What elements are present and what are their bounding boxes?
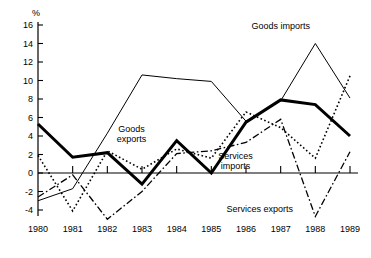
- x-tick-label: 1989: [340, 224, 360, 234]
- x-tick-label: 1982: [97, 224, 117, 234]
- series-annotation-services-exports: Services exports: [227, 204, 294, 214]
- x-tick-label: 1985: [201, 224, 221, 234]
- x-tick-label: 1983: [132, 224, 152, 234]
- y-tick-label: 16: [23, 20, 33, 30]
- y-tick-label: 12: [23, 57, 33, 67]
- x-tick-label: 1984: [167, 224, 187, 234]
- series-annotation-goods-exports: Goodsexports: [117, 124, 147, 144]
- chart-container: 1614121086420-2-4 1980198119821983198419…: [0, 0, 371, 258]
- series-line-services-imports: [38, 100, 350, 184]
- x-tick-label: 1981: [63, 224, 83, 234]
- y-axis-unit-label: %: [32, 8, 40, 18]
- y-tick-label: 14: [23, 39, 33, 49]
- series-annotation-services-imports: Servicesimports: [218, 151, 253, 171]
- y-tick-labels: 1614121086420-2-4: [23, 20, 33, 215]
- line-chart: 1614121086420-2-4 1980198119821983198419…: [0, 0, 371, 258]
- y-tick-label: 2: [28, 150, 33, 160]
- y-tick-label: -4: [25, 205, 33, 215]
- series-annotation-goods-imports: Goods imports: [251, 21, 310, 31]
- x-tick-label: 1980: [28, 224, 48, 234]
- x-tick-label: 1988: [305, 224, 325, 234]
- y-tick-marks: [38, 25, 43, 210]
- x-tick-label: 1987: [271, 224, 291, 234]
- x-tick-label: 1986: [236, 224, 256, 234]
- series-line-goods-imports: [38, 44, 350, 201]
- series-paths: [38, 44, 350, 220]
- x-tick-labels: 1980198119821983198419851986198719881989: [28, 224, 360, 234]
- y-tick-label: 4: [28, 131, 33, 141]
- y-tick-label: -2: [25, 187, 33, 197]
- series-annotations: Goods importsGoodsexportsServicesimports…: [117, 21, 311, 214]
- y-tick-label: 0: [28, 168, 33, 178]
- y-tick-label: 10: [23, 76, 33, 86]
- y-tick-label: 6: [28, 113, 33, 123]
- y-tick-label: 8: [28, 94, 33, 104]
